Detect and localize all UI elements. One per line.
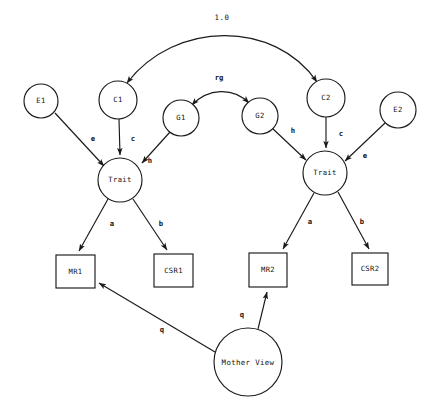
edge-g1-g2 — [192, 92, 249, 105]
edge-trait1-mr1 — [79, 199, 108, 251]
edge-mother-mr2 — [258, 292, 267, 329]
edge-label-c1-trait1: c — [131, 134, 135, 143]
edge-g2-trait2-group: h — [272, 126, 306, 160]
edge-label-trait2-mr2: a — [308, 217, 312, 226]
node-csr1[interactable]: CSR1 — [154, 254, 193, 287]
edge-label-g2-trait2: h — [291, 126, 295, 135]
edge-e1-trait1 — [55, 113, 104, 166]
edge-label-g1-g2: rg — [215, 73, 224, 82]
node-mr1[interactable]: MR1 — [56, 255, 95, 288]
node-mr2[interactable]: MR2 — [249, 253, 287, 287]
node-e2[interactable]: E2 — [380, 92, 416, 128]
edge-label-mother-mr1: q — [160, 325, 164, 334]
node-csr2-label: CSR2 — [361, 264, 380, 273]
edge-label-trait1-csr1: b — [159, 219, 164, 228]
edge-c2-trait2-group: c — [326, 117, 343, 148]
edge-mother-mr2-group: q — [240, 292, 267, 329]
node-mother-view-label: Mother View — [222, 358, 275, 367]
node-e1-label: E1 — [36, 96, 45, 105]
edge-e2-trait2-group: e — [345, 123, 385, 161]
edge-g1-trait1-group: h — [142, 132, 170, 165]
edge-c1-trait1 — [119, 119, 120, 155]
edge-label-trait1-mr1: a — [110, 219, 114, 228]
edge-label-e2-trait2: e — [363, 151, 368, 160]
node-g2-label: G2 — [255, 111, 264, 120]
node-g1[interactable]: G1 — [163, 100, 199, 136]
edge-trait1-mr1-group: a — [79, 199, 114, 251]
edge-label-e1-trait1: e — [91, 134, 96, 143]
node-mr1-label: MR1 — [68, 267, 82, 276]
edge-g1-g2-group: rg — [192, 73, 249, 105]
edge-label-c2-trait2: c — [339, 129, 343, 138]
node-mr2-label: MR2 — [261, 265, 275, 274]
node-c1[interactable]: C1 — [99, 81, 137, 119]
path-diagram-canvas: 1.0 rg e c h h c e — [0, 0, 440, 415]
edge-c1-trait1-group: c — [119, 119, 135, 155]
edge-label-g1-trait1: h — [148, 156, 152, 165]
node-e2-label: E2 — [393, 105, 402, 114]
edge-g2-trait2 — [272, 128, 306, 160]
node-trait1[interactable]: Trait — [98, 158, 142, 202]
edge-label-c1-c2: 1.0 — [215, 13, 230, 22]
node-e1[interactable]: E1 — [24, 84, 58, 118]
edge-trait1-csr1-group: b — [133, 199, 167, 250]
edge-label-trait2-csr2: b — [360, 217, 365, 226]
node-c1-label: C1 — [113, 95, 122, 104]
node-g2[interactable]: G2 — [242, 98, 278, 134]
node-c2[interactable]: C2 — [307, 79, 345, 117]
edge-trait2-mr2-group: a — [283, 193, 314, 249]
edge-trait2-csr2-group: b — [338, 192, 369, 249]
node-csr1-label: CSR1 — [164, 266, 183, 275]
node-trait2-label: Trait — [313, 168, 336, 177]
edge-mother-mr1 — [99, 283, 215, 352]
node-trait2[interactable]: Trait — [303, 151, 347, 195]
edge-e1-trait1-group: e — [55, 113, 104, 166]
node-csr2[interactable]: CSR2 — [352, 253, 388, 285]
node-trait1-label: Trait — [108, 175, 131, 184]
node-c2-label: C2 — [321, 93, 330, 102]
path-diagram: 1.0 rg e c h h c e — [0, 0, 440, 415]
edge-trait2-csr2 — [338, 192, 369, 249]
edge-g1-trait1 — [142, 132, 170, 163]
node-g1-label: G1 — [176, 113, 185, 122]
node-mother-view[interactable]: Mother View — [214, 328, 282, 396]
edge-mother-mr1-group: q — [99, 283, 215, 352]
edge-label-mother-mr2: q — [240, 310, 244, 319]
